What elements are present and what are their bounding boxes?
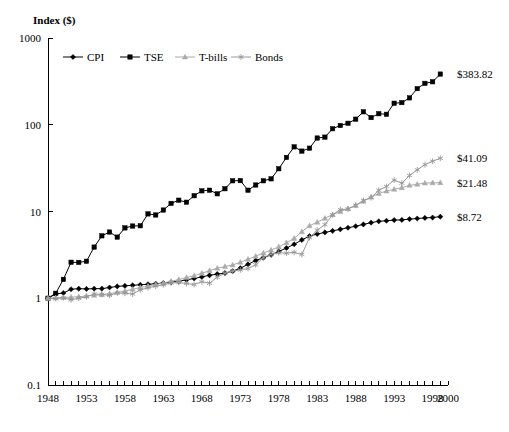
x-tick-label: 1953 <box>75 392 98 404</box>
data-point-marker <box>423 81 427 85</box>
data-point-marker <box>345 225 350 230</box>
chart-legend: CPITSET-billsBonds <box>63 51 283 63</box>
data-point-marker <box>407 96 411 100</box>
data-point-marker <box>361 222 366 227</box>
data-point-marker <box>384 218 389 223</box>
series-end-label: $41.09 <box>457 152 488 164</box>
data-point-marker <box>430 80 434 84</box>
data-point-marker <box>415 216 420 221</box>
x-tick-label: 1963 <box>152 392 175 404</box>
data-point-marker <box>438 155 443 161</box>
data-point-marker <box>138 224 142 228</box>
y-tick-label: 1000 <box>19 32 42 44</box>
data-point-marker <box>292 145 296 149</box>
data-point-marker <box>399 217 404 222</box>
data-point-marker <box>238 178 242 182</box>
legend-item-tse[interactable]: TSE <box>120 51 164 63</box>
y-axis-title: Index ($) <box>33 14 76 27</box>
data-point-marker <box>299 237 304 242</box>
x-tick-label: 1993 <box>383 392 406 404</box>
data-point-marker <box>61 277 65 281</box>
data-point-marker <box>207 273 212 278</box>
data-point-marker <box>246 188 250 192</box>
data-point-marker <box>115 284 120 289</box>
series-end-label: $21.48 <box>457 177 488 189</box>
series-line <box>48 183 440 299</box>
x-tick-label: 1983 <box>306 392 329 404</box>
x-tick-label: 2000 <box>437 392 460 404</box>
chart-container: Index ($) 10001001010.1 1948195319581963… <box>0 0 509 432</box>
data-point-marker <box>438 214 443 219</box>
data-point-marker <box>128 55 132 59</box>
data-point-marker <box>207 188 211 192</box>
series-line <box>48 74 440 298</box>
x-tick-label: 1958 <box>114 392 137 404</box>
data-point-marker <box>400 100 404 104</box>
axis-tick-marks <box>48 38 448 385</box>
x-tick-label: 1948 <box>37 392 60 404</box>
data-point-marker <box>338 227 343 232</box>
data-point-marker <box>123 226 127 230</box>
data-point-marker <box>392 217 397 222</box>
data-point-marker <box>430 215 435 220</box>
series-end-label: $8.72 <box>457 211 482 223</box>
data-point-marker <box>100 234 104 238</box>
data-point-marker <box>161 208 165 212</box>
series-end-label: $383.82 <box>457 68 493 80</box>
index-line-chart: Index ($) 10001001010.1 1948195319581963… <box>0 0 509 432</box>
legend-item-bonds[interactable]: Bonds <box>231 51 283 63</box>
data-point-marker <box>323 135 327 139</box>
series-end-labels: $8.72$383.82$21.48$41.09 <box>457 68 493 223</box>
data-point-marker <box>261 179 265 183</box>
data-point-marker <box>200 189 204 193</box>
data-point-marker <box>84 259 88 263</box>
legend-item-cpi[interactable]: CPI <box>63 51 104 63</box>
data-point-marker <box>192 194 196 198</box>
data-point-marker <box>438 72 442 76</box>
data-point-marker <box>430 158 435 164</box>
data-point-marker <box>84 286 89 291</box>
data-point-marker <box>307 146 311 150</box>
data-point-marker <box>99 286 104 291</box>
data-point-marker <box>284 245 289 250</box>
data-point-marker <box>230 179 234 183</box>
data-point-marker <box>115 235 119 239</box>
x-tick-label: 1988 <box>345 392 368 404</box>
data-point-marker <box>368 220 373 225</box>
data-point-marker <box>169 201 173 205</box>
data-point-marker <box>392 101 396 105</box>
data-point-marker <box>300 149 304 153</box>
data-point-marker <box>338 123 342 127</box>
data-point-marker <box>346 121 350 125</box>
data-point-marker <box>269 177 273 181</box>
data-point-marker <box>70 54 75 59</box>
data-point-marker <box>77 260 81 264</box>
legend-label: T-bills <box>199 51 227 63</box>
data-point-marker <box>284 240 289 245</box>
x-tick-label: 1978 <box>268 392 291 404</box>
data-point-marker <box>330 127 334 131</box>
data-point-marker <box>369 115 373 119</box>
data-point-marker <box>415 86 419 90</box>
data-point-marker <box>130 224 134 228</box>
x-tick-label: 1968 <box>191 392 214 404</box>
data-point-marker <box>107 285 112 290</box>
data-point-marker <box>377 112 381 116</box>
data-point-marker <box>184 200 188 204</box>
data-point-marker <box>299 229 304 234</box>
data-point-marker <box>330 228 335 233</box>
y-tick-label: 0.1 <box>27 379 41 391</box>
data-point-marker <box>69 260 73 264</box>
series-bonds <box>45 155 442 302</box>
data-point-marker <box>122 283 127 288</box>
y-axis-tick-labels: 10001001010.1 <box>19 32 42 391</box>
x-axis-tick-labels: 1948195319581963196819731978198319881993… <box>37 392 460 404</box>
y-tick-label: 10 <box>30 206 42 218</box>
legend-label: CPI <box>87 51 104 63</box>
series-cpi <box>45 214 443 301</box>
y-tick-label: 1 <box>36 292 42 304</box>
legend-item-t-bills[interactable]: T-bills <box>175 51 227 63</box>
x-tick-label: 1973 <box>229 392 252 404</box>
data-point-marker <box>353 117 357 121</box>
data-point-marker <box>277 167 281 171</box>
